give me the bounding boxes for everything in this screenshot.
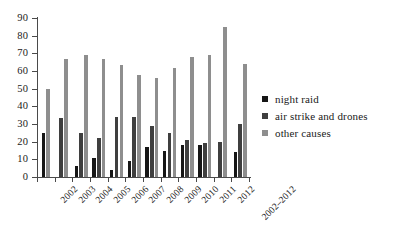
bar (155, 78, 159, 177)
x-axis-tick (55, 178, 56, 182)
x-axis-tick (214, 178, 215, 182)
legend-item[interactable]: air strike and drones (262, 107, 398, 124)
x-axis-tick-label: 2006 (129, 184, 150, 205)
y-axis-tick-label: 80 (2, 31, 28, 42)
bar (75, 166, 79, 177)
x-axis-tick (37, 178, 38, 182)
x-axis-tick (196, 178, 197, 182)
x-axis-tick-label: 2002 (59, 184, 80, 205)
bar (181, 145, 185, 177)
x-axis-tick-label: 2012 (235, 184, 256, 205)
y-axis-tick-label: 30 (2, 119, 28, 130)
x-axis-tick-label: 2010 (200, 184, 221, 205)
bar (120, 65, 124, 177)
bar (115, 117, 119, 177)
bar (223, 27, 227, 177)
bar (84, 55, 88, 177)
legend-item-label: other causes (275, 127, 331, 139)
bar (238, 124, 242, 177)
bar (234, 152, 238, 177)
legend-swatch-icon (262, 96, 268, 102)
x-axis-tick-label: 2007 (147, 184, 168, 205)
x-axis-tick-label: 2011 (217, 184, 238, 205)
bar (97, 138, 101, 177)
x-axis-tick (249, 178, 250, 182)
x-axis-tick-label: 2004 (94, 184, 115, 205)
bar (59, 118, 63, 177)
x-axis-tick (143, 178, 144, 182)
bar (79, 133, 83, 177)
x-axis-tick-label: 2005 (112, 184, 133, 205)
bar (137, 75, 141, 177)
x-axis-tick (125, 178, 126, 182)
chart-legend: night raidair strike and dronesother cau… (262, 90, 398, 141)
x-axis-tick-label: 2002–2012 (260, 184, 298, 222)
x-axis-tick (108, 178, 109, 182)
bar (208, 55, 212, 177)
legend-item-label: air strike and drones (275, 110, 368, 122)
legend-item[interactable]: night raid (262, 90, 398, 107)
bar (185, 140, 189, 177)
bar (168, 133, 172, 177)
bar (110, 170, 114, 177)
y-axis-tick-label: 70 (2, 48, 28, 59)
legend-swatch-icon (262, 113, 268, 119)
bar (128, 161, 132, 177)
y-axis-tick-label: 20 (2, 137, 28, 148)
plot-area (37, 18, 249, 177)
y-axis-tick-label: 90 (2, 13, 28, 24)
y-axis-tick-label: 50 (2, 84, 28, 95)
x-axis-tick (72, 178, 73, 182)
bar (203, 143, 207, 177)
bar (173, 68, 177, 177)
bar (163, 151, 167, 178)
bar (92, 158, 96, 177)
legend-swatch-icon (262, 130, 268, 136)
x-axis-tick (161, 178, 162, 182)
y-axis-tick-label: 60 (2, 66, 28, 77)
x-axis-tick-label: 2008 (165, 184, 186, 205)
bar (243, 64, 247, 177)
bar (102, 59, 106, 177)
bar (198, 145, 202, 177)
y-axis-tick-label: 0 (2, 172, 28, 183)
x-axis-tick (178, 178, 179, 182)
bar-chart: 0102030405060708090 20022003200420052006… (0, 0, 400, 238)
bar (42, 133, 46, 177)
bar (145, 147, 149, 177)
y-axis-tick-label: 40 (2, 101, 28, 112)
x-axis-tick (90, 178, 91, 182)
bar (64, 59, 68, 177)
x-axis-tick-label: 2003 (76, 184, 97, 205)
bar (132, 117, 136, 177)
bar (150, 126, 154, 177)
bar (218, 142, 222, 177)
x-axis-tick (231, 178, 232, 182)
bar (190, 57, 194, 177)
y-axis-tick-label: 10 (2, 154, 28, 165)
x-axis-line (37, 177, 251, 178)
bar (46, 89, 50, 177)
x-axis-tick-label: 2009 (182, 184, 203, 205)
legend-item-label: night raid (275, 93, 319, 105)
legend-item[interactable]: other causes (262, 124, 398, 141)
